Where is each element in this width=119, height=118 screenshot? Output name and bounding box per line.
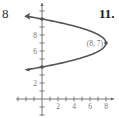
- y-tick-label: 8: [33, 31, 37, 40]
- y-tick-label: 6: [33, 47, 37, 56]
- curve-arrow-icons: [24, 13, 30, 72]
- axes: [16, 3, 114, 116]
- x-tick-label: 2: [56, 102, 60, 111]
- marked-point: [40, 17, 44, 21]
- y-axis-arrow-icon: [40, 3, 43, 6]
- y-tick-label: 2: [33, 79, 37, 88]
- textbook-figure: 8 11. 2468268 (8, 7): [0, 0, 119, 118]
- vertex-label: (8, 7): [87, 39, 104, 48]
- x-axis-arrow-icon: [111, 97, 114, 100]
- marked-point: [40, 65, 44, 69]
- parabola-graph: 2468268 (8, 7): [0, 0, 119, 118]
- x-tick-label: 6: [88, 102, 92, 111]
- x-tick-label: 4: [72, 102, 76, 111]
- marked-point: [104, 41, 108, 45]
- x-tick-label: 8: [104, 102, 108, 111]
